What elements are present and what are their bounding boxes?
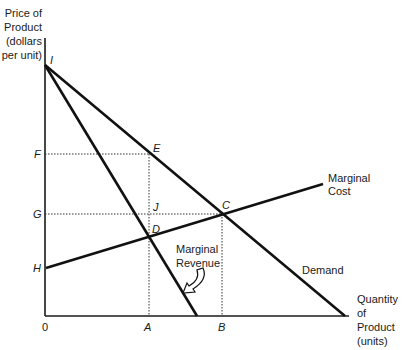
y-axis-label: Price of Product (dollars per unit)	[0, 6, 42, 62]
y-axis-label-line: per unit)	[0, 48, 42, 62]
x-axis-label-line: Quantity	[357, 292, 398, 306]
point-label-B: B	[218, 321, 225, 334]
point-label-C: C	[222, 199, 230, 212]
point-label-D: D	[152, 223, 160, 236]
x-axis-label: Quantity of Product (units)	[357, 292, 398, 348]
marginal-cost-label-line: Marginal	[328, 172, 370, 185]
point-label-A: A	[144, 321, 151, 334]
point-label-I: I	[50, 54, 53, 67]
y-axis-label-line: Product	[0, 20, 42, 34]
marginal-revenue-label-line: Revenue	[176, 256, 220, 270]
point-label-E: E	[153, 142, 160, 155]
y-axis-label-line: Price of	[0, 6, 42, 20]
demand-label: Demand	[302, 264, 344, 277]
marginal-revenue-arrow-icon	[183, 268, 204, 293]
marginal-cost-label-line: Cost	[328, 185, 370, 198]
point-label-F: F	[34, 148, 41, 161]
origin-label: 0	[42, 321, 48, 334]
x-axis-label-line: Product	[357, 320, 398, 334]
point-label-H: H	[33, 262, 41, 275]
marginal-revenue-label-line: Marginal	[176, 242, 220, 256]
y-axis-label-line: (dollars	[0, 34, 42, 48]
point-label-G: G	[33, 208, 42, 221]
x-axis-label-line: of	[357, 306, 398, 320]
marginal-cost-label: Marginal Cost	[328, 172, 370, 198]
point-label-J: J	[153, 201, 159, 214]
marginal-revenue-label: Marginal Revenue	[176, 242, 220, 270]
x-axis-label-line: (units)	[357, 334, 398, 348]
monopoly-diagram: Price of Product (dollars per unit) Quan…	[0, 0, 405, 350]
marginal-revenue-curve	[45, 65, 197, 316]
